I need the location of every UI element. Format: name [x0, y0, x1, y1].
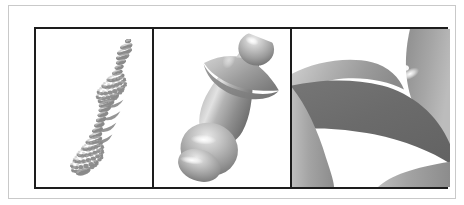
surface-sample-dot [105, 112, 108, 115]
surface-sample-dot [80, 149, 83, 151]
surface-sample-dot [99, 132, 103, 135]
surface-sample-dot [112, 82, 115, 84]
surface-sample-dot [113, 78, 116, 80]
surface-sample-dot [88, 146, 91, 148]
surface-sample-dot [124, 82, 127, 84]
surface-sample-dot [101, 122, 104, 125]
surface-sample-dot [96, 144, 99, 146]
surface-sample-dot [72, 161, 75, 163]
surface-sample-dot [109, 79, 112, 81]
surface-sample-dot [120, 81, 123, 83]
surface-sample-dot [73, 166, 76, 168]
surface-sample-dot [76, 159, 79, 161]
surface-sample-dot [117, 73, 120, 75]
surface-sample-dot [109, 94, 112, 96]
surface-sample-dot [84, 144, 87, 146]
surface-sample-dot [90, 141, 93, 143]
surface-sample-dot [106, 80, 109, 82]
surface-sample-dot [87, 150, 90, 152]
surface-sample-dot [121, 65, 123, 67]
surface-sample-dot [103, 96, 106, 98]
closeup-surface-graphic [292, 29, 450, 187]
panel-closeup-shaded: close-up of flared region [290, 29, 450, 187]
surface-sample-dot [75, 156, 78, 158]
surface-sample-dot [91, 154, 94, 156]
surface-sample-dot [129, 43, 132, 45]
surface-sample-dot [102, 90, 105, 92]
surface-sample-dot [92, 160, 95, 162]
surface-sample-dot [92, 149, 95, 151]
figure-outer-frame: point-sampled surface [8, 5, 456, 199]
surface-sample-dot [98, 137, 102, 140]
surface-sample-dot [126, 53, 129, 55]
surface-sample-dot [116, 94, 119, 96]
surface-sample-dot [96, 94, 99, 96]
surface-sample-dot [109, 76, 112, 78]
surface-sample-dot [112, 75, 115, 77]
surface-sample-dot [129, 48, 132, 50]
surface-sample-dot [89, 160, 92, 162]
surface-sample-dot [123, 59, 125, 61]
surface-sample-dot [82, 152, 85, 154]
surface-sample-dot [103, 85, 106, 87]
surface-sample-dot [111, 101, 114, 103]
surface-sample-dot [105, 101, 108, 103]
figure-panel-strip: point-sampled surface [34, 27, 448, 189]
surface-sample-dot [73, 158, 76, 160]
surface-sample-dot [122, 74, 125, 76]
surface-sample-dot [123, 78, 126, 80]
surface-sample-dot [80, 156, 83, 158]
surface-sample-dot [103, 82, 106, 84]
panel-point-sampled: point-sampled surface [36, 29, 152, 187]
surface-sample-dot [100, 97, 103, 99]
surface-sample-dot [111, 87, 114, 89]
surface-sample-dot [121, 88, 124, 90]
surface-sample-dot [96, 148, 99, 150]
surface-sample-dot [115, 86, 118, 88]
surface-sample-dot [87, 143, 90, 145]
surface-sample-dot [117, 81, 120, 83]
surface-sample-dot [85, 169, 89, 172]
surface-sample-dot [78, 154, 81, 156]
surface-sample-dot [112, 93, 115, 95]
surface-sample-dot [106, 95, 109, 97]
surface-sample-dot [94, 136, 97, 138]
panel-smooth-shaded: smooth shaded surface [152, 29, 290, 187]
surface-sample-dot [86, 155, 89, 157]
surface-sample-dot [92, 144, 95, 146]
surface-sample-dot [93, 164, 98, 168]
surface-sample-dot [97, 158, 102, 162]
point-sampled-surface-graphic [36, 29, 152, 187]
surface-sample-dot [99, 92, 102, 94]
surface-sample-dot [92, 137, 95, 139]
surface-sample-dot [78, 151, 81, 153]
surface-sample-dot [117, 77, 120, 79]
surface-sample-dot [120, 70, 122, 72]
surface-sample-dot [95, 153, 98, 155]
surface-sample-dot [80, 162, 83, 164]
surface-sample-dot [76, 164, 79, 166]
surface-sample-dot [114, 74, 117, 76]
smooth-shaded-surface-graphic [154, 29, 290, 187]
surface-sample-dot [84, 161, 87, 163]
surface-sample-dot [99, 87, 102, 89]
surface-sample-dot [89, 138, 92, 140]
surface-sample-dot [71, 167, 74, 169]
surface-sample-dot [106, 88, 109, 90]
surface-sample-dot [128, 39, 130, 41]
surface-sample-dot [70, 163, 73, 165]
surface-sample-dot [107, 83, 110, 85]
figure-root: point-sampled surface [0, 0, 464, 205]
surface-sample-dot [84, 147, 87, 149]
surface-sample-dot [97, 89, 100, 91]
